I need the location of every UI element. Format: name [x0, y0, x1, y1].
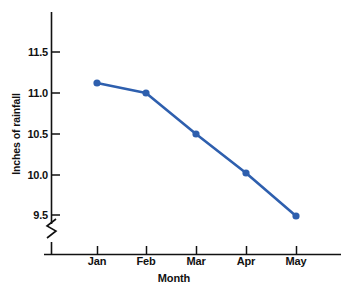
- data-point-mar: [192, 130, 199, 137]
- axis-break-icon: [47, 219, 56, 238]
- y-tick-label-9-5: 9.5: [2, 210, 48, 221]
- y-tick-label-11-0: 11.0: [2, 88, 48, 99]
- x-tick-label-may: May: [271, 255, 321, 267]
- data-point-apr: [242, 169, 249, 176]
- y-tick-label-11-5: 11.5: [2, 47, 48, 58]
- y-axis-title: Inches of rainfall: [10, 74, 22, 194]
- chart-plot-area: [0, 0, 348, 294]
- x-tick-label-apr: Apr: [221, 255, 271, 267]
- data-point-markers: [93, 79, 299, 219]
- data-point-may: [292, 212, 299, 219]
- y-tick-marks: [52, 52, 61, 215]
- data-series-line: [97, 83, 296, 216]
- x-tick-marks: [98, 246, 297, 255]
- data-point-jan: [93, 79, 100, 86]
- x-axis-title: Month: [0, 272, 348, 284]
- y-tick-label-10-5: 10.5: [2, 129, 48, 140]
- x-tick-label-jan: Jan: [72, 255, 122, 267]
- data-point-feb: [142, 89, 149, 96]
- y-tick-label-10-0: 10.0: [2, 170, 48, 181]
- x-tick-label-mar: Mar: [171, 255, 221, 267]
- y-axis-tick-labels: 11.5 11.0 10.5 10.0 9.5: [0, 0, 48, 294]
- x-tick-label-feb: Feb: [121, 255, 171, 267]
- rainfall-line-chart: 11.5 11.0 10.5 10.0 9.5 Jan Feb Mar Apr …: [0, 0, 348, 294]
